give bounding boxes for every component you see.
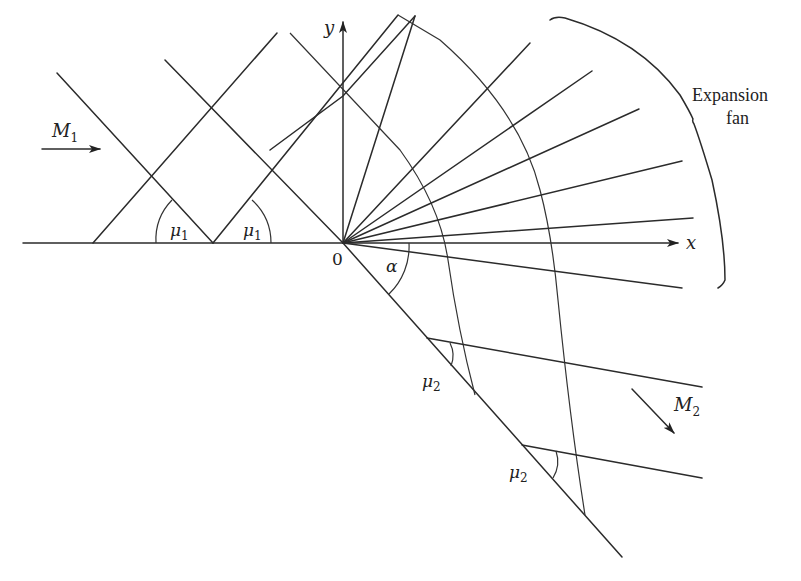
upstream-mach-label: M1: [51, 120, 78, 145]
mach-line-left-running: [343, 16, 415, 243]
mu2-angle-arc: [450, 343, 453, 366]
expansion-fan-label: Expansion: [692, 85, 768, 105]
downstream-mach-line: [427, 338, 702, 387]
origin-label: 0: [332, 249, 343, 269]
fan-ray: [343, 43, 530, 243]
characteristic-curve-2: [398, 15, 585, 515]
y-axis-label: y: [323, 17, 335, 38]
expansion-fan-label: fan: [726, 108, 749, 128]
mu2-label: μ2: [509, 462, 528, 485]
downstream-mach-line: [522, 445, 702, 478]
mu2-angle-arc: [553, 451, 558, 478]
mu1-label: μ1: [170, 220, 189, 243]
fan-ray: [343, 71, 592, 243]
mu2-label: μ2: [422, 371, 441, 394]
expansion-fan-diagram: x y 0 μ1 μ1 α μ2 μ2: [0, 0, 801, 581]
mach-line-right-running: [165, 60, 343, 243]
alpha-label: α: [386, 256, 398, 276]
fan-ray: [343, 109, 639, 243]
downstream-flow-arrow: [632, 389, 674, 433]
downstream-mach-label: M2: [673, 394, 700, 419]
x-axis-label: x: [686, 232, 696, 253]
characteristic-curve-1: [290, 33, 475, 395]
downstream-wall: [343, 243, 622, 557]
expansion-fan-brace: [550, 17, 725, 288]
mu1-label: μ1: [243, 220, 262, 243]
mach-line-right-running: [57, 73, 213, 243]
